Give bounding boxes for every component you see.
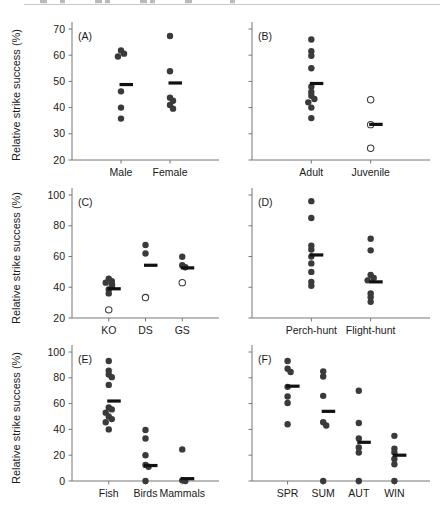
data-point-filled xyxy=(142,427,148,433)
data-point-filled xyxy=(308,198,314,204)
data-point-open xyxy=(142,294,148,300)
data-point-filled xyxy=(103,279,109,285)
y-tick-label: 60 xyxy=(53,250,65,262)
mean-bar xyxy=(107,287,121,290)
data-point-filled xyxy=(391,478,397,484)
data-point-filled xyxy=(142,435,148,441)
x-category-label: AUT xyxy=(348,487,370,499)
data-point-filled xyxy=(308,115,314,121)
data-point-filled xyxy=(170,105,176,111)
data-point-filled xyxy=(356,435,362,441)
x-category-label: GS xyxy=(175,324,190,336)
mean-bar xyxy=(393,454,407,457)
y-tick-label: 60 xyxy=(53,397,65,409)
data-point-filled xyxy=(284,358,290,364)
mean-bar xyxy=(181,266,195,269)
y-axis-title: Relative strike success (%) xyxy=(10,352,22,484)
x-category-label: Flight-hunt xyxy=(346,324,396,336)
y-tick-label: 30 xyxy=(53,127,65,139)
y-tick-label: 20 xyxy=(53,312,65,324)
data-point-filled xyxy=(284,393,290,399)
x-category-label: KO xyxy=(101,324,116,336)
data-point-filled xyxy=(308,215,314,221)
data-point-filled xyxy=(308,36,314,42)
y-tick-label: 20 xyxy=(53,449,65,461)
data-point-filled xyxy=(106,358,112,364)
data-point-filled xyxy=(118,104,124,110)
mean-bar xyxy=(310,82,324,85)
x-category-label: Male xyxy=(110,166,133,178)
data-point-filled xyxy=(179,446,185,452)
data-point-filled xyxy=(308,65,314,71)
data-point-filled xyxy=(356,478,362,484)
data-point-filled xyxy=(109,406,115,412)
data-point-filled xyxy=(284,400,290,406)
mean-bar xyxy=(144,264,158,267)
x-category-label: Mammals xyxy=(159,487,205,499)
data-point-filled xyxy=(142,452,148,458)
mean-bar xyxy=(144,464,158,467)
y-tick-label: 80 xyxy=(53,371,65,383)
data-point-filled xyxy=(308,53,314,59)
panel-letter: (C) xyxy=(78,196,93,208)
x-category-label: Fish xyxy=(99,487,119,499)
mean-bar xyxy=(322,410,336,413)
data-point-filled xyxy=(142,478,148,484)
data-point-filled xyxy=(167,33,173,39)
figure-panel-grid: 203040506070Relative strike success (%)(… xyxy=(0,0,446,516)
y-tick-label: 0 xyxy=(59,475,65,487)
data-point-filled xyxy=(308,246,314,252)
data-point-filled xyxy=(391,433,397,439)
x-category-label: WIN xyxy=(384,487,404,499)
data-point-filled xyxy=(106,426,112,432)
data-point-filled xyxy=(308,104,314,110)
panel-letter: (D) xyxy=(258,196,273,208)
data-point-filled xyxy=(106,290,112,296)
x-category-label: Juvenile xyxy=(351,166,390,178)
x-category-label: SUM xyxy=(312,487,335,499)
data-point-filled xyxy=(356,420,362,426)
data-point-filled xyxy=(179,254,185,260)
x-category-label: Birds xyxy=(134,487,158,499)
data-point-filled xyxy=(308,269,314,275)
data-point-filled xyxy=(391,461,397,467)
data-point-filled xyxy=(103,419,109,425)
mean-bar xyxy=(120,83,134,86)
data-point-filled xyxy=(367,247,373,253)
y-tick-label: 70 xyxy=(53,23,65,35)
data-point-filled xyxy=(115,53,121,59)
mean-bar xyxy=(107,399,121,402)
panel-letter: (E) xyxy=(78,353,92,365)
data-point-filled xyxy=(308,283,314,289)
data-point-filled xyxy=(308,260,314,266)
data-point-filled xyxy=(367,299,373,305)
data-point-filled xyxy=(106,382,112,388)
data-point-filled xyxy=(323,422,329,428)
y-tick-label: 80 xyxy=(53,219,65,231)
mean-bar xyxy=(169,81,183,84)
panel-letter: (B) xyxy=(258,30,272,42)
panel-letter: (F) xyxy=(258,353,271,365)
data-point-filled xyxy=(320,393,326,399)
y-tick-label: 100 xyxy=(47,189,65,201)
data-point-filled xyxy=(142,250,148,256)
y-tick-label: 20 xyxy=(53,154,65,166)
data-point-filled xyxy=(287,369,293,375)
y-tick-label: 40 xyxy=(53,281,65,293)
x-category-label: Female xyxy=(152,166,187,178)
mean-bar xyxy=(357,441,371,444)
data-point-filled xyxy=(320,373,326,379)
y-axis-title: Relative strike success (%) xyxy=(10,29,22,161)
data-point-filled xyxy=(109,374,115,380)
data-point-open xyxy=(179,279,185,285)
data-point-filled xyxy=(284,421,290,427)
mean-bar xyxy=(286,385,300,388)
data-point-open xyxy=(106,307,112,313)
y-axis-title: Relative strike success (%) xyxy=(10,192,22,324)
data-point-filled xyxy=(167,68,173,74)
panel-letter: (A) xyxy=(78,30,92,42)
data-point-filled xyxy=(109,416,115,422)
y-tick-label: 50 xyxy=(53,75,65,87)
data-point-filled xyxy=(311,96,317,102)
mean-bar xyxy=(369,123,383,126)
